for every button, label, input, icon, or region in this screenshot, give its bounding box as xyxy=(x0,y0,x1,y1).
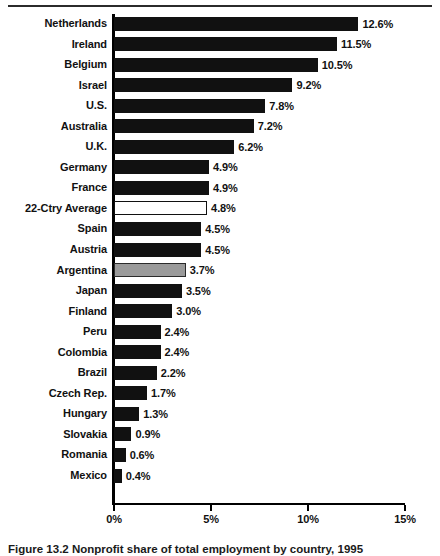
x-tick-mark xyxy=(404,505,406,511)
bar-row: France4.9% xyxy=(0,178,440,199)
bar-and-value: 4.9% xyxy=(114,181,238,195)
bar-category-label: Finland xyxy=(69,302,113,323)
figure-top-rule xyxy=(8,5,432,7)
bar-category-label: Spain xyxy=(78,219,113,240)
bar-category-label: U.K. xyxy=(85,137,113,158)
bar-and-value: 0.9% xyxy=(114,427,160,441)
bar-row: Peru2.4% xyxy=(0,322,440,343)
bar-row: Romania0.6% xyxy=(0,445,440,466)
bar-and-value: 3.7% xyxy=(114,263,214,277)
bar-value-label: 2.4% xyxy=(161,325,190,339)
bar-row: Germany4.9% xyxy=(0,158,440,179)
bar-value-label: 3.0% xyxy=(172,304,201,318)
bar xyxy=(114,284,182,298)
bar-value-label: 4.8% xyxy=(207,201,236,215)
bar-and-value: 0.4% xyxy=(114,469,150,483)
bar-category-label: Romania xyxy=(61,445,113,466)
figure-caption: Figure 13.2 Nonprofit share of total emp… xyxy=(8,543,432,556)
bar-category-label: Hungary xyxy=(63,404,113,425)
bar-value-label: 1.3% xyxy=(139,407,168,421)
bar-row: Brazil2.2% xyxy=(0,363,440,384)
bar-row: Czech Rep.1.7% xyxy=(0,384,440,405)
bar-row: 22-Ctry Average4.8% xyxy=(0,199,440,220)
bar-and-value: 12.6% xyxy=(114,17,393,31)
bar-row: Slovakia0.9% xyxy=(0,425,440,446)
bar-value-label: 9.2% xyxy=(292,78,321,92)
bar-category-label: Australia xyxy=(61,117,113,138)
x-tick-mark xyxy=(307,505,309,511)
bar-row: Israel9.2% xyxy=(0,76,440,97)
bar-row: U.K.6.2% xyxy=(0,137,440,158)
bar-category-label: 22-Ctry Average xyxy=(25,199,113,220)
bar xyxy=(114,99,265,113)
bar-and-value: 11.5% xyxy=(114,37,371,51)
bar xyxy=(114,201,207,215)
bar-and-value: 7.2% xyxy=(114,119,282,133)
bar-row: Japan3.5% xyxy=(0,281,440,302)
bar-category-label: Czech Rep. xyxy=(49,384,113,405)
bar-and-value: 3.0% xyxy=(114,304,201,318)
bar-row: Ireland11.5% xyxy=(0,35,440,56)
bar-and-value: 1.3% xyxy=(114,407,168,421)
bar-value-label: 12.6% xyxy=(358,17,393,31)
bar xyxy=(114,469,122,483)
bar xyxy=(114,407,139,421)
bar-row: U.S.7.8% xyxy=(0,96,440,117)
bar-category-label: Israel xyxy=(79,76,113,97)
bar xyxy=(114,427,131,441)
bar-and-value: 10.5% xyxy=(114,58,352,72)
bar xyxy=(114,448,126,462)
bar-value-label: 4.5% xyxy=(201,222,230,236)
bar-category-label: Netherlands xyxy=(45,14,113,35)
bar-category-label: U.S. xyxy=(86,96,113,117)
bar-and-value: 2.4% xyxy=(114,325,189,339)
bar-category-label: Slovakia xyxy=(63,425,113,446)
bar-and-value: 1.7% xyxy=(114,386,176,400)
bar-value-label: 7.2% xyxy=(254,119,283,133)
bar xyxy=(114,222,201,236)
bar xyxy=(114,325,161,339)
bar xyxy=(114,119,254,133)
bar-and-value: 0.6% xyxy=(114,448,154,462)
bar xyxy=(114,17,358,31)
bar-category-label: Peru xyxy=(83,322,113,343)
bar-and-value: 9.2% xyxy=(114,78,321,92)
bar-category-label: Mexico xyxy=(70,466,113,487)
bar-value-label: 3.7% xyxy=(186,263,215,277)
bar-value-label: 0.4% xyxy=(122,469,151,483)
bar-value-label: 10.5% xyxy=(318,58,353,72)
bar-value-label: 4.5% xyxy=(201,243,230,257)
bar-value-label: 4.9% xyxy=(209,181,238,195)
bar-category-label: Germany xyxy=(60,158,113,179)
bar-row: Finland3.0% xyxy=(0,302,440,323)
bar xyxy=(114,140,234,154)
bar-value-label: 0.6% xyxy=(126,448,155,462)
bar-rows: Netherlands12.6%Ireland11.5%Belgium10.5%… xyxy=(0,14,440,487)
bar xyxy=(114,78,292,92)
x-tick-mark xyxy=(113,505,115,511)
bar-and-value: 4.5% xyxy=(114,222,230,236)
bar-category-label: France xyxy=(72,178,113,199)
bar-row: Colombia2.4% xyxy=(0,343,440,364)
bar xyxy=(114,58,318,72)
bar-and-value: 3.5% xyxy=(114,284,211,298)
bar xyxy=(114,263,186,277)
bar-and-value: 4.5% xyxy=(114,243,230,257)
bar-row: Belgium10.5% xyxy=(0,55,440,76)
bar xyxy=(114,345,161,359)
bar xyxy=(114,243,201,257)
bar-value-label: 1.7% xyxy=(147,386,176,400)
bar xyxy=(114,304,172,318)
bar-row: Australia7.2% xyxy=(0,117,440,138)
bar-row: Netherlands12.6% xyxy=(0,14,440,35)
bar-row: Austria4.5% xyxy=(0,240,440,261)
x-tick-label: 10% xyxy=(297,513,319,525)
bar-category-label: Colombia xyxy=(58,343,113,364)
bar xyxy=(114,366,157,380)
bar-row: Spain4.5% xyxy=(0,219,440,240)
bar-value-label: 0.9% xyxy=(131,427,160,441)
bar xyxy=(114,37,337,51)
bar-category-label: Austria xyxy=(70,240,113,261)
bar-category-label: Argentina xyxy=(57,261,113,282)
